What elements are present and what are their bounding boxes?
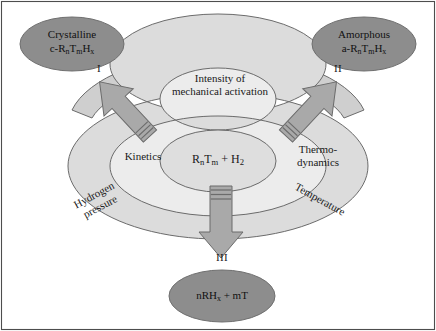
diagram-canvas: Crystalline c-RnTmHx I Amorphous a-RnTmH…: [0, 0, 436, 331]
center-ellipse: [160, 130, 276, 192]
products-ellipse: [169, 270, 275, 322]
crystalline-ellipse: [20, 17, 124, 71]
amorphous-ellipse: [312, 17, 416, 71]
diagram-svg: [0, 0, 436, 331]
